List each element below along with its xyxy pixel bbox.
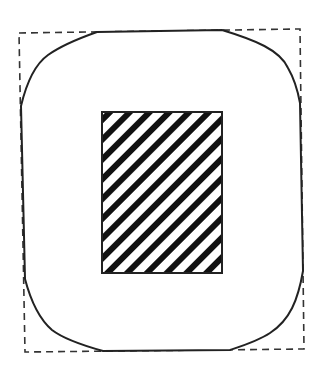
- diagram-canvas: [0, 0, 322, 375]
- hatched-rectangle: [102, 112, 222, 273]
